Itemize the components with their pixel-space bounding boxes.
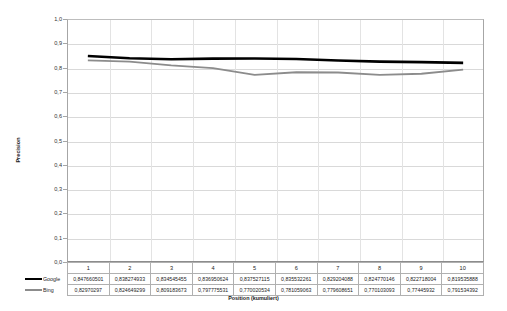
column-header: 4 <box>192 263 234 274</box>
data-cell: 0,835532261 <box>275 274 317 285</box>
table-corner-cell <box>24 263 68 274</box>
y-tick-label: 0,7 <box>22 89 62 95</box>
data-cell: 0,847660501 <box>68 274 110 285</box>
data-cell: 0,779608651 <box>317 285 359 296</box>
precision-line-chart: Precision 1,00,90,80,70,60,50,40,30,20,1… <box>0 0 507 311</box>
data-cell: 0,824770146 <box>359 274 401 285</box>
y-tick-label: 0,9 <box>22 40 62 46</box>
legend-swatch-icon <box>25 278 42 281</box>
column-header: 1 <box>68 263 110 274</box>
x-axis-title: Position (kumuliert) <box>0 295 507 301</box>
data-cell: 0,791534392 <box>442 285 484 296</box>
y-tick-label: 0,8 <box>22 65 62 71</box>
data-table-body: 12345678910Google0,8476605010,8382749330… <box>24 263 484 296</box>
series-lines <box>67 19 484 262</box>
y-tick-label: 0,4 <box>22 162 62 168</box>
column-header: 5 <box>234 263 276 274</box>
column-header: 8 <box>359 263 401 274</box>
data-cell: 0,770103093 <box>359 285 401 296</box>
y-tick-label: 0,6 <box>22 113 62 119</box>
data-cell: 0,77445932 <box>400 285 442 296</box>
y-tick-label: 1,0 <box>22 16 62 22</box>
legend-label: Google <box>43 276 60 282</box>
y-axis-tick-labels: 1,00,90,80,70,60,50,40,30,20,10,0 <box>0 0 67 262</box>
column-header: 3 <box>151 263 193 274</box>
data-table: 12345678910Google0,8476605010,8382749330… <box>24 262 484 296</box>
data-cell: 0,838274933 <box>109 274 151 285</box>
y-tick-label: 0,1 <box>22 235 62 241</box>
data-cell: 0,829204088 <box>317 274 359 285</box>
series-line-google <box>88 56 463 63</box>
data-cell: 0,834545455 <box>151 274 193 285</box>
data-cell: 0,836950624 <box>192 274 234 285</box>
legend-swatch-icon <box>25 289 42 291</box>
data-cell: 0,824649299 <box>109 285 151 296</box>
column-header: 9 <box>400 263 442 274</box>
column-header: 7 <box>317 263 359 274</box>
data-cell: 0,837527115 <box>234 274 276 285</box>
table-row: Bing0,829702970,8246492990,8091836730,79… <box>24 285 484 296</box>
legend-entry-bing: Bing <box>24 285 68 296</box>
data-cell: 0,82970297 <box>68 285 110 296</box>
data-cell: 0,770020534 <box>234 285 276 296</box>
table-header-row: 12345678910 <box>24 263 484 274</box>
data-cell: 0,809183673 <box>151 285 193 296</box>
data-cell: 0,822718004 <box>400 274 442 285</box>
y-tick-label: 0,3 <box>22 186 62 192</box>
data-cell: 0,819535888 <box>442 274 484 285</box>
data-cell: 0,781059063 <box>275 285 317 296</box>
y-tick-label: 0,2 <box>22 210 62 216</box>
table-row: Google0,8476605010,8382749330,8345454550… <box>24 274 484 285</box>
legend-entry-google: Google <box>24 274 68 285</box>
column-header: 6 <box>275 263 317 274</box>
data-cell: 0,797775531 <box>192 285 234 296</box>
column-header: 2 <box>109 263 151 274</box>
column-header: 10 <box>442 263 484 274</box>
y-tick-label: 0,5 <box>22 138 62 144</box>
legend-label: Bing <box>43 287 54 293</box>
